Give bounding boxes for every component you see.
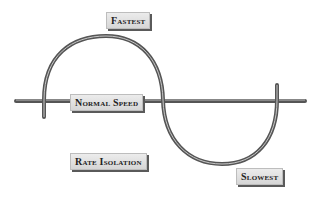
label-normal-speed: Normal Speed <box>70 94 143 111</box>
label-slowest: Slowest <box>236 168 283 185</box>
label-rate-isolation: Rate Isolation <box>70 153 147 170</box>
label-fastest: Fastest <box>106 12 150 29</box>
